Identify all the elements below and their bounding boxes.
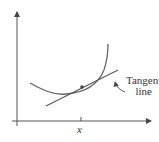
tangent-label-line2: line (126, 86, 159, 97)
curve (30, 44, 108, 94)
label-arrow (115, 82, 125, 92)
diagram-canvas (0, 0, 159, 142)
tangent-line-label: Tangent line (126, 75, 159, 97)
x-tick-label: x (77, 124, 82, 135)
tangent-point (80, 85, 84, 89)
tangent-line-diagram: Tangent line x (0, 0, 159, 142)
